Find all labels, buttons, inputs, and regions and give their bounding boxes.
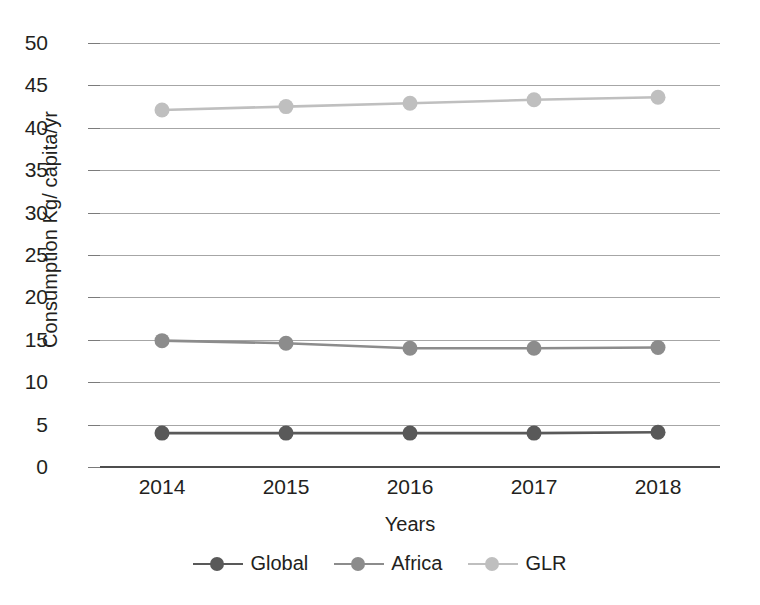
y-axis-tick-mark — [88, 425, 100, 426]
y-axis-tick-mark — [88, 43, 100, 44]
y-axis-tick-mark — [88, 382, 100, 383]
data-point-marker — [403, 426, 418, 441]
data-point-marker — [527, 426, 542, 441]
x-axis-tick-label: 2016 — [355, 475, 465, 499]
y-axis-tick-label: 25 — [0, 243, 48, 267]
series-layer — [100, 43, 720, 467]
legend-swatch-icon — [334, 556, 384, 572]
line-chart: Consumption Kg/ capita/yr 05101520253035… — [0, 0, 760, 605]
data-point-marker — [651, 425, 666, 440]
y-axis-tick-mark — [88, 340, 100, 341]
legend-swatch-icon — [193, 556, 243, 572]
y-axis-tick-label: 40 — [0, 116, 48, 140]
y-axis-tick-label: 0 — [0, 455, 48, 479]
y-axis-tick-mark — [88, 255, 100, 256]
plot-area — [100, 43, 720, 467]
legend-item-glr[interactable]: GLR — [468, 552, 566, 575]
data-point-marker — [527, 92, 542, 107]
y-axis-tick-label: 35 — [0, 158, 48, 182]
x-axis-title: Years — [100, 513, 720, 536]
x-axis-line — [100, 466, 720, 468]
y-axis-tick-mark — [88, 128, 100, 129]
data-point-marker — [651, 90, 666, 105]
data-point-marker — [155, 102, 170, 117]
legend-swatch-icon — [468, 556, 518, 572]
legend-label: Global — [250, 552, 308, 575]
y-axis-tick-mark — [88, 170, 100, 171]
y-axis-tick-label: 15 — [0, 328, 48, 352]
x-axis-tick-label: 2018 — [603, 475, 713, 499]
data-point-marker — [527, 341, 542, 356]
y-axis-tick-mark — [88, 213, 100, 214]
y-axis-tick-mark — [88, 85, 100, 86]
data-point-marker — [279, 99, 294, 114]
y-axis-tick-label: 50 — [0, 31, 48, 55]
x-axis-tick-label: 2015 — [231, 475, 341, 499]
chart-legend: GlobalAfricaGLR — [0, 552, 760, 575]
y-axis-tick-label: 30 — [0, 201, 48, 225]
x-axis-tick-label: 2017 — [479, 475, 589, 499]
y-axis-tick-mark — [88, 297, 100, 298]
data-point-marker — [155, 333, 170, 348]
data-point-marker — [279, 426, 294, 441]
data-point-marker — [279, 336, 294, 351]
y-axis-tick-label: 20 — [0, 285, 48, 309]
data-point-marker — [403, 96, 418, 111]
y-axis-tick-label: 10 — [0, 370, 48, 394]
data-point-marker — [155, 426, 170, 441]
legend-item-africa[interactable]: Africa — [334, 552, 442, 575]
y-axis-tick-label: 45 — [0, 73, 48, 97]
data-point-marker — [403, 341, 418, 356]
y-axis-tick-mark — [88, 467, 100, 468]
y-axis-tick-label: 5 — [0, 413, 48, 437]
legend-item-global[interactable]: Global — [193, 552, 308, 575]
data-point-marker — [651, 340, 666, 355]
legend-label: Africa — [391, 552, 442, 575]
x-axis-tick-label: 2014 — [107, 475, 217, 499]
legend-label: GLR — [525, 552, 566, 575]
